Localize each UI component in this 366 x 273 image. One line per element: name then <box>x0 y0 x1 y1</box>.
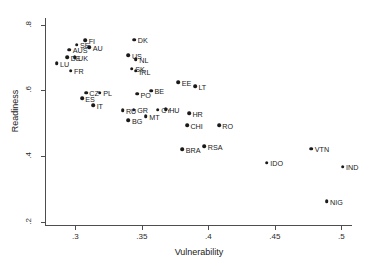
y-tick-mark <box>41 25 45 26</box>
scatter-point <box>65 55 69 59</box>
scatter-point <box>265 161 269 165</box>
scatter-point-label: HU <box>169 107 179 114</box>
x-tick-label: .4 <box>195 232 221 241</box>
x-axis-title: Vulnerability <box>46 247 352 257</box>
scatter-point <box>187 111 191 115</box>
scatter-point-label: AU <box>93 45 103 52</box>
scatter-point-label: LU <box>60 61 69 68</box>
scatter-point <box>177 80 181 84</box>
scatter-point <box>134 58 138 62</box>
scatter-point-label: IDO <box>270 161 283 168</box>
scatter-point-label: NIG <box>330 199 343 206</box>
x-tick-mark <box>275 226 276 230</box>
scatter-point <box>217 124 221 128</box>
scatter-point <box>69 69 73 73</box>
scatter-point-label: ES <box>85 96 95 103</box>
scatter-point-label: PO <box>141 92 151 99</box>
y-tick-mark <box>41 156 45 157</box>
scatter-point <box>341 165 345 169</box>
y-tick-label: .6 <box>24 80 33 100</box>
scatter-point <box>203 144 207 148</box>
scatter-point-label: RSA <box>208 144 223 151</box>
scatter-point <box>127 54 131 58</box>
scatter-point-label: IRL <box>139 69 150 76</box>
x-axis-line <box>45 225 352 226</box>
x-tick-label: .35 <box>129 232 155 241</box>
scatter-point-label: NL <box>139 57 148 64</box>
scatter-point-label: DK <box>138 38 148 45</box>
x-tick-label: .45 <box>262 232 288 241</box>
scatter-point-label: UK <box>78 55 88 62</box>
scatter-point <box>98 91 102 95</box>
y-tick-label: .8 <box>24 14 33 34</box>
scatter-point-label: FR <box>74 69 84 76</box>
scatter-point-label: IND <box>346 165 358 172</box>
scatter-point <box>127 118 131 122</box>
scatter-point <box>156 108 160 112</box>
scatter-point-label: HR <box>192 111 202 118</box>
y-tick-label: .4 <box>24 146 33 166</box>
scatter-point <box>84 91 88 95</box>
scatter-point <box>149 89 153 93</box>
scatter-plot-figure: .8.6.4.2 .3.35.4.45.5 Readiness Vulnerab… <box>0 0 366 273</box>
scatter-point <box>73 55 77 59</box>
x-tick-mark <box>142 226 143 230</box>
scatter-point <box>193 84 197 88</box>
scatter-point <box>134 69 138 73</box>
scatter-point <box>80 96 84 100</box>
y-tick-label: .2 <box>24 211 33 231</box>
scatter-point-label: EE <box>182 80 192 87</box>
y-tick-mark <box>41 90 45 91</box>
scatter-point <box>91 104 95 108</box>
x-tick-mark <box>75 226 76 230</box>
scatter-point-label: MT <box>149 114 159 121</box>
scatter-point-label: IT <box>97 103 103 110</box>
scatter-point <box>144 114 148 118</box>
scatter-point <box>310 147 314 151</box>
scatter-point-label: BRA <box>186 147 201 154</box>
scatter-point <box>133 38 137 42</box>
scatter-point <box>55 61 59 65</box>
scatter-point <box>135 92 139 96</box>
scatter-point <box>132 108 136 112</box>
x-tick-label: .3 <box>62 232 88 241</box>
scatter-point-label: LT <box>198 84 206 91</box>
scatter-point-label: CHI <box>190 123 202 130</box>
scatter-point <box>67 48 71 52</box>
x-tick-label: .5 <box>328 232 354 241</box>
y-tick-mark <box>41 222 45 223</box>
scatter-point-label: PL <box>103 91 112 98</box>
scatter-point <box>181 148 185 152</box>
x-tick-mark <box>208 226 209 230</box>
scatter-point <box>325 200 329 204</box>
scatter-point <box>185 123 189 127</box>
scatter-point-label: BE <box>155 89 165 96</box>
scatter-point <box>121 108 125 112</box>
scatter-point <box>164 107 168 111</box>
y-axis-title: Readiness <box>10 71 20 151</box>
x-tick-mark <box>341 226 342 230</box>
scatter-point-label: RO <box>222 123 233 130</box>
scatter-point-label: BG <box>132 118 142 125</box>
scatter-point-label: VTN <box>315 147 329 154</box>
scatter-point <box>87 45 91 49</box>
